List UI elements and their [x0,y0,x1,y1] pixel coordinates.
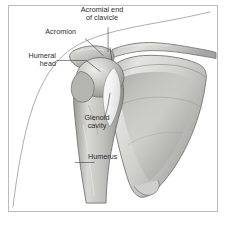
shoulder-anatomy-illustration [9,6,217,211]
figure-frame [8,5,218,212]
figure-root: Acromial end of clavicle Acromion Humera… [0,0,228,231]
